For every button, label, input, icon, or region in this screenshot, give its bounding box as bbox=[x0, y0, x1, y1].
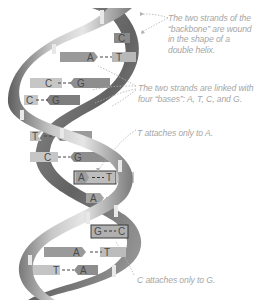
base-left: A bbox=[78, 172, 85, 183]
base-right: T bbox=[104, 247, 110, 258]
annotation-line: in the shape of a bbox=[168, 34, 252, 45]
base-left: C bbox=[45, 78, 52, 89]
base-left: C bbox=[44, 152, 51, 163]
base-pair: T A bbox=[26, 265, 98, 276]
base-pair-highlighted: G C bbox=[91, 225, 128, 238]
leader-backbone-2 bbox=[142, 18, 168, 32]
base-right: G bbox=[74, 152, 82, 163]
base-left: A bbox=[87, 52, 94, 63]
base-right: C bbox=[118, 226, 125, 237]
base-right: C bbox=[118, 33, 125, 44]
base-pair: A T bbox=[44, 247, 126, 258]
base-pair: C G bbox=[24, 95, 80, 106]
annotation-line: The two strands are linked with bbox=[138, 83, 253, 94]
base-left: T bbox=[53, 265, 59, 276]
annotation-line: double helix. bbox=[168, 45, 252, 56]
base-right: G bbox=[52, 95, 60, 106]
base-pair: C G bbox=[30, 78, 110, 89]
base-left: A bbox=[90, 193, 97, 204]
base-right: T bbox=[116, 52, 122, 63]
base-pair: C bbox=[114, 33, 130, 44]
base-left: A bbox=[73, 247, 80, 258]
annotation-line: T attaches only to A. bbox=[137, 128, 213, 139]
annotation-backbone: The two strands of the “backbone” are wo… bbox=[168, 13, 252, 55]
annotation-line: four “bases”: A, T, C, and G. bbox=[138, 94, 253, 105]
annotation-c-to-g: C attaches only to G. bbox=[137, 275, 215, 286]
annotation-line: The two strands of the bbox=[168, 13, 252, 24]
annotation-t-to-a: T attaches only to A. bbox=[137, 128, 213, 139]
base-left: C bbox=[26, 95, 33, 106]
base-right: G bbox=[77, 78, 85, 89]
annotation-line: “backbone” are wound bbox=[168, 24, 252, 35]
base-right: T bbox=[106, 172, 112, 183]
base-pair: A T bbox=[60, 52, 136, 63]
annotation-line: C attaches only to G. bbox=[137, 275, 215, 286]
base-left: T bbox=[32, 131, 38, 142]
annotation-bases: The two strands are linked with four “ba… bbox=[138, 83, 253, 104]
base-left: G bbox=[94, 226, 102, 237]
leader-backbone-1 bbox=[140, 14, 168, 18]
base-right: A bbox=[80, 265, 87, 276]
